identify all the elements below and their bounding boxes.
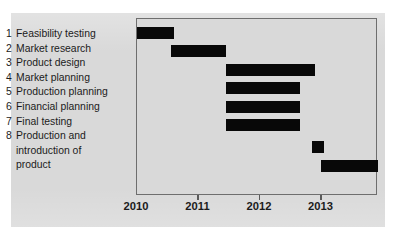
task-list-item: 3 Product design [6,56,128,71]
axis-tick-label: 2013 [308,200,333,212]
axis-tick-label: 2010 [124,200,149,212]
task-list-item: 4 Market planning [6,71,128,86]
task-list-item: 7 Final testing [6,115,128,130]
task-label-continuation: product [6,158,128,173]
task-label: Feasibility testing [16,27,128,42]
task-label: Market planning [16,71,128,86]
task-label-list: 1 Feasibility testing 2 Market research … [6,27,128,173]
gantt-chart-figure: 1 Feasibility testing 2 Market research … [0,0,397,238]
gantt-bar [226,82,300,94]
gantt-bar [137,27,174,39]
task-number: 8 [6,129,16,144]
plot-frame [136,18,377,195]
gantt-bar [321,160,378,172]
task-number: 7 [6,115,16,130]
gantt-bar [226,64,315,76]
task-list-item: 6 Financial planning [6,100,128,115]
task-number: 5 [6,85,16,100]
gantt-bar [312,141,324,153]
task-label: Market research [16,42,128,57]
task-number: 1 [6,27,16,42]
gantt-bar [171,45,226,57]
gantt-bars-layer [137,19,376,194]
task-label: Product design [16,56,128,71]
task-number: 6 [6,100,16,115]
task-list-item: 2 Market research [6,42,128,57]
task-number: 3 [6,56,16,71]
gantt-bar [226,101,300,113]
task-label: Financial planning [16,100,128,115]
task-label: Final testing [16,115,128,130]
axis-tick-label: 2012 [247,200,272,212]
task-list-item: 1 Feasibility testing [6,27,128,42]
task-label-continuation: introduction of [6,144,128,159]
task-label: Production planning [16,85,128,100]
gantt-bar [226,119,300,131]
axis-tick-label: 2011 [185,200,209,212]
task-number: 2 [6,42,16,57]
task-number: 4 [6,71,16,86]
task-list-item: 5 Production planning [6,85,128,100]
task-list-item: 8 Production and [6,129,128,144]
task-label: Production and [16,129,128,144]
